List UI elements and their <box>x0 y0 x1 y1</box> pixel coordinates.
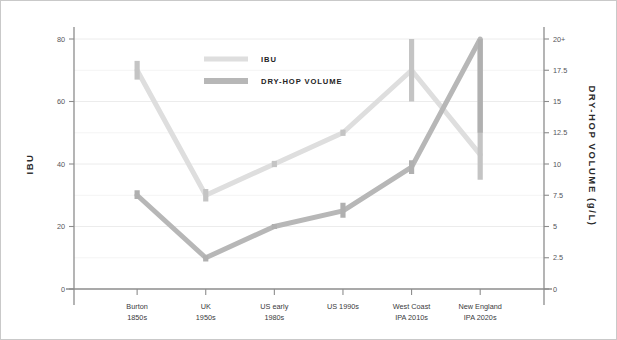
x-tick-label: US early <box>260 302 288 311</box>
y-tick-label-right: 15 <box>553 97 561 106</box>
x-tick-label: US 1990s <box>327 302 359 311</box>
y-tick-label-right: 20+ <box>553 35 565 44</box>
x-tick-label: 1950s <box>196 313 216 322</box>
x-tick-label: West Coast <box>393 302 431 311</box>
y-axis-right-title: DRY-HOP VOLUME (g/L) <box>587 85 598 226</box>
y-axis-left-title: IBU <box>24 153 35 174</box>
x-tick-label: UK <box>201 302 211 311</box>
y-tick-label-right: 7.5 <box>553 191 563 200</box>
chart-figure: 02040608002.557.51012.51517.520+Burton18… <box>0 0 617 340</box>
x-tick-label: 1850s <box>127 313 147 322</box>
x-tick-label: Burton <box>126 302 148 311</box>
x-tick-label: IPA 2020s <box>464 313 497 322</box>
y-tick-label-right: 5 <box>553 222 557 231</box>
y-tick-label-right: 10 <box>553 160 561 169</box>
chart-canvas: 02040608002.557.51012.51517.520+Burton18… <box>1 1 617 340</box>
y-tick-label-left: 40 <box>57 160 65 169</box>
y-tick-label-left: 60 <box>57 97 65 106</box>
y-tick-label-left: 20 <box>57 222 65 231</box>
x-tick-label: 1980s <box>264 313 284 322</box>
y-tick-label-right: 17.5 <box>553 66 567 75</box>
y-tick-label-left: 0 <box>61 285 65 294</box>
legend-label-ibu: IBU <box>261 55 277 64</box>
legend-label-dry-hop-volume: DRY-HOP VOLUME <box>261 77 342 86</box>
y-tick-label-left: 80 <box>57 35 65 44</box>
x-tick-label: IPA 2010s <box>395 313 428 322</box>
y-tick-label-right: 0 <box>553 285 557 294</box>
y-tick-label-right: 12.5 <box>553 128 567 137</box>
x-tick-label: New England <box>458 302 501 311</box>
y-tick-label-right: 2.5 <box>553 253 563 262</box>
